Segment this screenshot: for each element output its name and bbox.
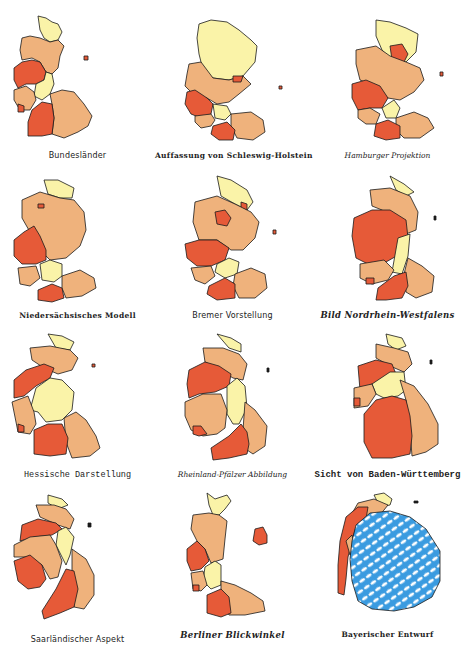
map-panel-niedersachsen: Niedersächsisches Modell xyxy=(0,160,155,323)
map-panel-hessen: Hessische Darstellung xyxy=(0,320,155,483)
germany-map xyxy=(155,0,310,150)
map-panel-rheinland-pfalz: Rheinland-Pfälzer Abbildung xyxy=(155,320,310,483)
map-caption: Bremer Vorstellung xyxy=(155,311,310,320)
map-caption: Hessische Darstellung xyxy=(0,470,155,480)
map-caption: Hamburger Projektion xyxy=(310,151,465,160)
map-caption: Bild Nordrhein-Westfalens xyxy=(310,310,465,320)
map-panel-berlin: Berliner Blickwinkel xyxy=(155,485,310,648)
map-caption: Saarländischer Aspekt xyxy=(0,635,155,644)
germany-map xyxy=(155,160,310,310)
map-caption: Berliner Blickwinkel xyxy=(155,630,310,640)
map-caption: Bundesländer xyxy=(0,151,155,160)
germany-map xyxy=(0,320,155,472)
germany-map xyxy=(0,0,155,150)
germany-map xyxy=(155,485,310,635)
germany-map xyxy=(0,485,155,635)
germany-map xyxy=(0,160,155,310)
germany-map xyxy=(310,160,465,310)
map-caption: Auffassung von Schleswig-Holstein xyxy=(155,151,310,160)
map-panel-hamburg: Hamburger Projektion xyxy=(310,0,465,163)
map-panel-baden-wuerttemberg: Sicht von Baden-Württemberg xyxy=(310,320,465,483)
map-panel-bayern: Bayerischer Entwurf xyxy=(310,485,465,648)
germany-map xyxy=(310,485,465,635)
map-panel-bremen: Bremer Vorstellung xyxy=(155,160,310,323)
map-caption: Rheinland-Pfälzer Abbildung xyxy=(155,470,310,479)
map-caption: Niedersächsisches Modell xyxy=(0,311,155,320)
germany-map xyxy=(310,320,465,472)
germany-map xyxy=(155,320,310,472)
map-caption: Sicht von Baden-Württemberg xyxy=(310,470,465,480)
germany-map xyxy=(310,0,465,150)
map-panel-nrw: Bild Nordrhein-Westfalens xyxy=(310,160,465,323)
map-caption: Bayerischer Entwurf xyxy=(310,630,465,639)
map-panel-schleswig-holstein: Auffassung von Schleswig-Holstein xyxy=(155,0,310,163)
map-panel-saarland: Saarländischer Aspekt xyxy=(0,485,155,648)
map-panel-bundeslaender: Bundesländer xyxy=(0,0,155,163)
